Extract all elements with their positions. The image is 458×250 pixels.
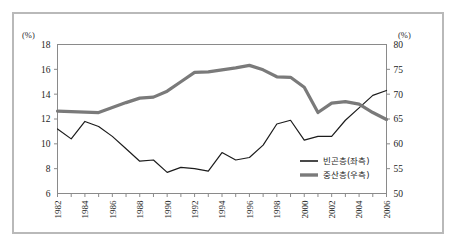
x-axis-labels: 1982198419861988199019921994199619982000… [53,200,392,219]
left-tick-label: 16 [41,65,51,75]
x-tick-label: 2004 [354,200,364,219]
x-tick-label: 1998 [272,200,282,219]
right-axis-ticks: 50556065707580 [387,40,404,199]
chart-figure: (%) (%) 681012141618 50556065707580 1982… [0,0,458,250]
left-tick-label: 14 [41,90,51,100]
legend-label-2: 중산층(우측) [323,170,370,180]
x-tick-label: 1988 [135,200,145,219]
right-tick-label: 80 [394,40,404,50]
x-tick-label: 1984 [80,200,90,219]
x-tick-label: 1996 [245,200,255,219]
left-tick-label: 12 [41,114,51,124]
x-tick-label: 1986 [108,200,118,219]
chart-legend: 빈곤층(좌측)중산층(우측) [300,156,370,180]
right-tick-label: 55 [394,164,404,174]
left-tick-label: 18 [41,40,51,50]
x-tick-label: 2002 [327,201,337,219]
left-tick-label: 6 [46,189,51,199]
left-axis-ticks: 681012141618 [41,40,58,199]
right-tick-label: 60 [394,139,404,149]
left-axis-unit: (%) [22,30,35,40]
legend-label-1: 빈곤층(좌측) [323,156,370,166]
x-tick-label: 1994 [217,200,227,219]
x-tick-label: 2006 [382,200,392,219]
x-tick-label: 1982 [53,201,63,219]
right-tick-label: 65 [394,114,404,124]
x-tick-label: 1990 [163,200,173,219]
x-tick-label: 2000 [300,200,310,219]
series-line-2 [58,65,387,119]
x-axis-ticks [58,194,387,198]
right-tick-label: 75 [394,65,404,75]
right-tick-label: 50 [394,189,404,199]
left-tick-label: 10 [41,139,51,149]
x-tick-label: 1992 [190,201,200,219]
right-tick-label: 70 [394,90,404,100]
right-axis-unit: (%) [398,30,411,40]
chart-canvas: (%) (%) 681012141618 50556065707580 1982… [0,0,458,250]
left-tick-label: 8 [46,164,51,174]
